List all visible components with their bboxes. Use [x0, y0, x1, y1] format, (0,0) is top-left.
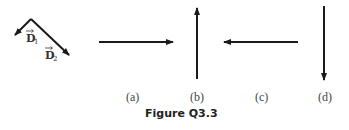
vector-d2-label: D 2: [45, 47, 57, 64]
vector-d2-subscript: 2: [53, 55, 57, 63]
vector-d1-label: D 1: [26, 30, 38, 47]
figure-caption: Figure Q3.3: [145, 107, 218, 120]
vector-d1-subscript: 1: [34, 38, 38, 46]
option-a-label: (a): [126, 90, 139, 105]
option-c-label: (c): [255, 90, 268, 105]
option-d-label: (d): [318, 90, 332, 105]
option-b-label: (b): [190, 90, 204, 105]
